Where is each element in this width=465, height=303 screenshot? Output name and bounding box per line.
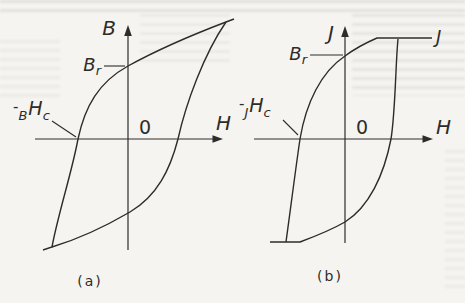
scanned-book-figure: B H 0 Br -BHc (a) J H 0 J bbox=[0, 0, 465, 303]
panel-a-x-axis-label: H bbox=[216, 111, 231, 135]
panel-a-coercivity-label: -BHc bbox=[13, 97, 50, 123]
panel-a-y-axis-arrow-icon bbox=[124, 25, 132, 36]
panel-b-coercivity-main: H bbox=[249, 94, 263, 116]
panel-a-remanence-sub: r bbox=[96, 63, 103, 78]
panel-b-loop-descending-branch bbox=[286, 38, 432, 242]
panel-a-coercivity-main: H bbox=[28, 97, 42, 119]
panel-b-y-axis-label: J bbox=[324, 21, 334, 45]
panel-a-remanence-main: B bbox=[83, 54, 95, 75]
panel-a-coercivity-sub: c bbox=[43, 108, 50, 123]
panel-a: B H 0 Br -BHc (a) bbox=[13, 16, 234, 289]
panel-b-loop-ascending-branch bbox=[270, 39, 398, 242]
panel-b-y-axis-arrow-icon bbox=[341, 26, 349, 37]
panel-a-coercivity-presub: B bbox=[18, 108, 27, 123]
panel-a-coercivity-leader-line bbox=[52, 121, 76, 137]
panel-a-x-axis-arrow-icon bbox=[213, 135, 224, 142]
panel-a-origin-label: 0 bbox=[139, 116, 151, 138]
panel-b-remanence-label: Br bbox=[289, 43, 308, 67]
panel-b-coercivity-label: -JHc bbox=[239, 94, 271, 120]
panel-b: J H 0 J Br -JHc (b) bbox=[239, 21, 451, 284]
panel-b-coercivity-sub: c bbox=[264, 105, 271, 120]
panel-b-x-axis-arrow-icon bbox=[423, 135, 434, 142]
panel-b-coercivity-leader-line bbox=[283, 120, 298, 135]
panel-b-origin-label: 0 bbox=[356, 116, 368, 138]
panel-b-saturation-label: J bbox=[433, 26, 441, 47]
panel-a-y-axis-label: B bbox=[102, 16, 116, 40]
panel-a-caption: (a) bbox=[77, 273, 103, 289]
panel-a-remanence-label: Br bbox=[83, 54, 102, 78]
panel-b-caption: (b) bbox=[317, 268, 343, 284]
hysteresis-figure-canvas: B H 0 Br -BHc (a) J H 0 J bbox=[0, 0, 465, 303]
panel-b-remanence-main: B bbox=[289, 43, 301, 64]
panel-b-x-axis-label: H bbox=[436, 115, 451, 139]
panel-b-remanence-sub: r bbox=[302, 52, 309, 67]
